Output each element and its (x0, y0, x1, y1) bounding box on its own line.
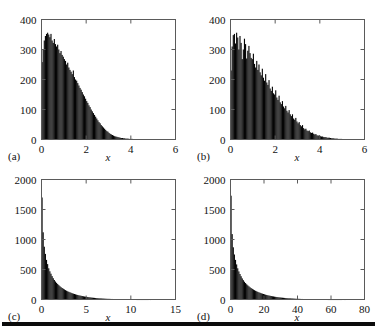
panel-b-plot: 0246 0100200300400 (b) x (189, 0, 377, 166)
histogram-bar (246, 59, 247, 140)
histogram-bar (267, 85, 268, 140)
histogram-bar (273, 93, 274, 139)
histogram-bar (286, 111, 287, 140)
histogram-bar (241, 43, 242, 140)
histogram-bar (48, 35, 49, 140)
histogram-bar (236, 33, 237, 140)
histogram-bar (295, 118, 296, 140)
histogram-bar (49, 271, 50, 299)
histogram-bar (270, 296, 271, 300)
x-tick-label: 2 (83, 143, 89, 155)
histogram-bar (272, 87, 273, 140)
histogram-bar (43, 50, 44, 140)
histogram-bar (60, 51, 61, 140)
histogram-bar (267, 295, 268, 299)
x-tick-label: 15 (170, 303, 182, 315)
histogram-bar (85, 99, 86, 140)
histogram-bar (60, 287, 61, 299)
x-tick-label: 4 (317, 143, 323, 155)
histogram-bar (279, 96, 280, 140)
panel-a-x-axis-title: x (105, 151, 111, 163)
histogram-bar (255, 68, 256, 140)
histogram-bar (254, 290, 255, 299)
panel-a-letter: (a) (8, 150, 21, 163)
histogram-bar (248, 286, 249, 299)
histogram-bar (247, 51, 248, 140)
histogram-bar (247, 285, 248, 299)
histogram-bar (95, 117, 96, 140)
histogram-bar (256, 61, 257, 140)
histogram-bar (55, 282, 56, 300)
y-tick-label: 300 (209, 44, 226, 56)
histogram-bar (59, 53, 60, 139)
histogram-bar (285, 106, 286, 140)
histogram-bar (252, 289, 253, 300)
histogram-bar (58, 285, 59, 299)
panel-d-axes-frame (231, 180, 365, 300)
histogram-bar (290, 114, 291, 139)
histogram-bar (65, 61, 66, 140)
histogram-bar (113, 136, 114, 140)
panel-b-bars-group (231, 33, 349, 140)
figure-container: 0246 0100200300400 (a) x 0246 0100200300… (0, 0, 377, 332)
histogram-bar (68, 68, 69, 140)
histogram-bar (109, 133, 110, 140)
y-tick-label: 1000 (204, 234, 227, 246)
y-tick-label: 500 (20, 264, 37, 276)
histogram-bar (83, 95, 84, 140)
panel-b-histogram-bars (231, 33, 349, 140)
y-tick-label: 500 (209, 264, 226, 276)
histogram-bar (253, 54, 254, 140)
histogram-bar (258, 292, 259, 299)
histogram-bar (62, 288, 63, 300)
x-tick-label: 0 (228, 303, 234, 315)
bottom-divider-rule (2, 322, 375, 326)
histogram-bar (79, 88, 80, 140)
histogram-bar (274, 95, 275, 140)
histogram-bar (88, 105, 89, 139)
histogram-bar (91, 110, 92, 140)
histogram-bar (232, 47, 233, 140)
histogram-bar (74, 77, 75, 139)
histogram-bar (76, 295, 77, 300)
histogram-bar (62, 55, 63, 140)
histogram-bar (249, 287, 250, 299)
histogram-bar (56, 283, 57, 300)
histogram-bar (53, 43, 54, 140)
histogram-bar (94, 115, 95, 140)
y-tick-label: 1500 (15, 204, 38, 216)
histogram-bar (291, 116, 292, 139)
histogram-bar (304, 129, 305, 139)
histogram-bar (69, 70, 70, 140)
histogram-bar (65, 290, 66, 299)
panel-c-plot: 051015 0500100015002000 (c) x (0, 166, 188, 326)
histogram-bar (112, 135, 113, 140)
histogram-bar (245, 44, 246, 139)
histogram-bar (265, 74, 266, 139)
histogram-bar (245, 283, 246, 299)
histogram-bar (303, 128, 304, 139)
histogram-bar (296, 122, 297, 140)
y-tick-label: 2000 (15, 174, 38, 186)
histogram-bar (298, 123, 299, 139)
histogram-bar (309, 131, 310, 140)
y-tick-label: 1500 (204, 204, 227, 216)
histogram-bar (251, 58, 252, 140)
histogram-bar (248, 46, 249, 140)
histogram-bar (90, 107, 91, 139)
histogram-bar (257, 292, 258, 300)
histogram-bar (72, 293, 73, 299)
histogram-bar (45, 254, 46, 300)
histogram-bar (106, 131, 107, 139)
histogram-bar (78, 86, 79, 140)
panel-b: 0246 0100200300400 (b) x (189, 0, 377, 166)
histogram-bar (110, 134, 111, 140)
histogram-bar (52, 276, 53, 299)
x-tick-label: 10 (125, 303, 137, 315)
histogram-bar (237, 268, 238, 299)
panel-a-plot: 0246 0100200300400 (a) x (0, 0, 188, 166)
histogram-bar (262, 69, 263, 140)
histogram-bar (47, 264, 48, 299)
histogram-bar (313, 134, 314, 140)
histogram-bar (235, 260, 236, 300)
